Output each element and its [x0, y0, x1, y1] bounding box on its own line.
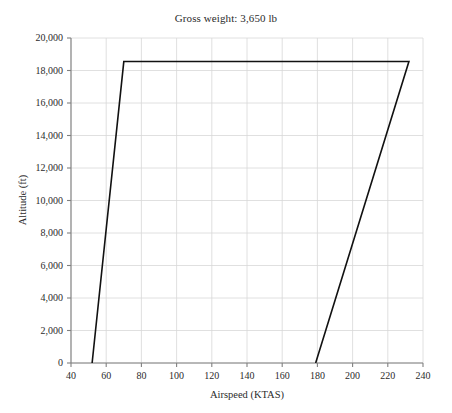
x-axis-tick-label: 200 [345, 370, 360, 381]
x-axis-tick-label: 120 [204, 370, 219, 381]
x-axis-tick-labels: 406080100120140160180200220240 [66, 370, 431, 381]
y-axis-ticks [67, 38, 71, 363]
envelope-curve-group [92, 62, 409, 363]
y-axis-tick-label: 0 [58, 357, 63, 368]
y-axis-tick-label: 4,000 [41, 292, 64, 303]
chart-figure: Gross weight: 3,650 lb 02,0004,0006,0008… [0, 0, 452, 413]
y-axis-tick-labels: 02,0004,0006,0008,00010,00012,00014,0001… [36, 32, 64, 368]
y-axis-tick-label: 18,000 [36, 65, 64, 76]
y-axis-tick-label: 20,000 [36, 32, 64, 43]
x-axis-ticks [71, 363, 423, 367]
x-axis-tick-label: 100 [169, 370, 184, 381]
x-axis-tick-label: 40 [66, 370, 76, 381]
flight-envelope-curve [92, 62, 409, 363]
x-axis-tick-label: 80 [136, 370, 146, 381]
y-axis-title: Altitude (ft) [17, 174, 29, 225]
x-axis-tick-label: 220 [380, 370, 395, 381]
x-axis-tick-label: 160 [275, 370, 290, 381]
x-axis-tick-label: 140 [240, 370, 255, 381]
x-axis-tick-label: 180 [310, 370, 325, 381]
y-axis-tick-label: 2,000 [41, 325, 64, 336]
flight-envelope-plot: 02,0004,0006,0008,00010,00012,00014,0001… [0, 0, 452, 413]
y-axis-tick-label: 10,000 [36, 195, 64, 206]
x-axis-tick-label: 240 [416, 370, 431, 381]
y-axis-tick-label: 16,000 [36, 97, 64, 108]
y-axis-tick-label: 12,000 [36, 162, 64, 173]
x-axis-title: Airspeed (KTAS) [210, 389, 285, 401]
y-axis-tick-label: 6,000 [41, 260, 64, 271]
y-axis-tick-label: 8,000 [41, 227, 64, 238]
y-axis-tick-label: 14,000 [36, 130, 64, 141]
x-axis-tick-label: 60 [101, 370, 111, 381]
